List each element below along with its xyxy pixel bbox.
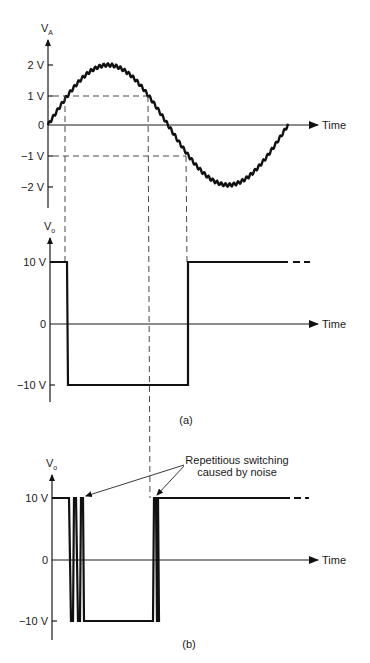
projection-line-3	[186, 156, 187, 262]
comparator-noise-diagram: VA Time 2 V 1 V 0 −1 V −2 V Vo Time 10 V	[0, 0, 370, 663]
output-panel-b: Vo Time 10 V 0 −10 V Repetitious switchi…	[19, 454, 346, 650]
caption-a: (a)	[179, 414, 192, 426]
vo-time-label-b: Time	[322, 554, 346, 566]
tick-0: 0	[38, 119, 44, 131]
annotation-line-1: Repetitious switching	[185, 454, 288, 466]
tick-0-b: 0	[42, 554, 48, 566]
va-axis-label: VA	[41, 22, 53, 36]
caption-b: (b)	[182, 638, 195, 650]
tick-1v: 1 V	[27, 90, 44, 102]
vo-axis-label-a: Vo	[44, 220, 55, 234]
tick-0-a: 0	[40, 318, 46, 330]
annotation-arrow-2	[157, 466, 184, 495]
tick-minus-10v-b: −10 V	[19, 615, 49, 627]
vo-time-label-a: Time	[322, 318, 346, 330]
output-panel-a: Vo Time 10 V 0 −10 V (a)	[17, 220, 346, 426]
annotation-arrow-1	[86, 465, 184, 496]
annotation-line-2: caused by noise	[197, 466, 277, 478]
tick-10v-b: 10 V	[25, 492, 48, 504]
vo-axis-label-b: Vo	[46, 457, 57, 471]
tick-minus-1v: −1 V	[21, 150, 45, 162]
tick-10v-a: 10 V	[23, 256, 46, 268]
input-panel: VA Time 2 V 1 V 0 −1 V −2 V	[21, 22, 346, 208]
va-time-label: Time	[322, 119, 346, 131]
tick-minus-2v: −2 V	[21, 181, 45, 193]
tick-minus-10v-a: −10 V	[17, 379, 47, 391]
tick-2v: 2 V	[27, 59, 44, 71]
